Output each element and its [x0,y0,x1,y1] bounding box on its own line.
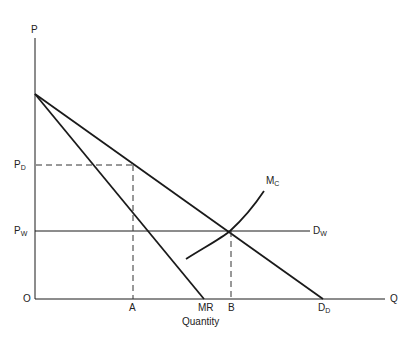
x-axis-title: Quantity [182,316,219,327]
y-axis-label: P [31,24,38,35]
origin-label: O [23,293,31,304]
x-axis-end-label: Q [390,293,398,304]
mc-label: MC [266,175,279,187]
mr-label: MR [198,302,214,313]
monopoly-trade-diagram: P Q O Quantity PD PW A MR B DD MC DW [0,0,415,343]
pd-label: PD [14,159,26,171]
pw-label: PW [14,225,28,237]
b-label: B [228,302,235,313]
a-label: A [129,302,136,313]
dw-label: DW [313,225,327,237]
dd-label: DD [318,302,330,314]
